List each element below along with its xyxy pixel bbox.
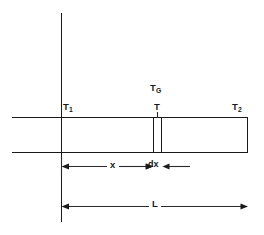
dimension-x — [62, 157, 154, 176]
label-l: L — [152, 199, 158, 209]
label-tg-sub: G — [156, 87, 161, 94]
dimension-x-arrow-left — [62, 163, 70, 169]
label-dx: dx — [148, 160, 159, 169]
label-t2-sub: 2 — [238, 106, 242, 113]
label-x: x — [110, 160, 115, 170]
label-t2: T2 — [232, 102, 242, 112]
dimension-l-arrow-right — [241, 203, 249, 209]
label-t: T — [154, 102, 160, 112]
label-t1-sub: 1 — [69, 106, 73, 113]
dimension-l-arrow-left — [62, 203, 70, 209]
label-tg-base: T — [150, 82, 156, 93]
label-t-base: T — [154, 101, 160, 112]
label-t1-base: T — [63, 101, 69, 112]
thermal-conduction-diagram: T1 TG T T2 x dx L — [0, 0, 264, 235]
label-t1: T1 — [63, 102, 73, 112]
dimension-dx-arrow-right — [163, 163, 170, 169]
label-t2-base: T — [232, 101, 238, 112]
label-tg: TG — [150, 83, 161, 93]
diagram-canvas — [0, 0, 264, 235]
